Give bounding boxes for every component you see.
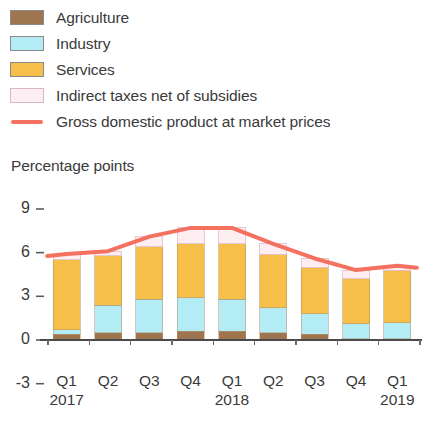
- bar-group: [53, 228, 411, 340]
- bar-segment: [343, 324, 370, 339]
- bar-segment: [136, 247, 163, 299]
- bar-segment: [219, 331, 246, 340]
- x-tick-label-quarter: Q3: [129, 372, 169, 389]
- y-tick-label: -3: [4, 375, 30, 391]
- x-tick-label-quarter: Q2: [88, 372, 128, 389]
- bar-segment: [53, 330, 80, 334]
- bar-segment: [343, 279, 370, 324]
- bar-segment: [301, 267, 328, 314]
- chart-legend: AgricultureIndustryServicesIndirect taxe…: [10, 4, 420, 134]
- legend-item: Indirect taxes net of subsidies: [10, 82, 420, 108]
- x-tick-label-quarter: Q1: [47, 372, 87, 389]
- legend-item-label: Agriculture: [56, 9, 129, 26]
- chart-plot-area: 9630-3Q1Q2Q3Q4Q1Q2Q3Q4Q1201720182019: [0, 185, 426, 430]
- bar-segment: [301, 334, 328, 340]
- bar-segment: [53, 260, 80, 330]
- bar-segment: [177, 244, 204, 298]
- bar-segment: [260, 308, 287, 333]
- legend-item: Agriculture: [10, 4, 420, 30]
- x-tick-label-quarter: Q1: [212, 372, 252, 389]
- legend-item-label: Industry: [56, 35, 110, 52]
- y-tick-label: 0: [4, 331, 30, 347]
- bar-segment: [384, 270, 411, 322]
- legend-item-label: Services: [56, 61, 115, 78]
- legend-item: Gross domestic product at market prices: [10, 108, 420, 134]
- y-axis-ticks: [36, 209, 44, 384]
- bar-segment: [301, 314, 328, 334]
- legend-item-label: Indirect taxes net of subsidies: [56, 87, 257, 104]
- square-swatch-icon: [10, 62, 44, 77]
- x-tick-label-quarter: Q3: [295, 372, 335, 389]
- bar-segment: [384, 323, 411, 339]
- bar-segment: [177, 298, 204, 331]
- y-tick-label: 6: [4, 244, 30, 260]
- bar-segment: [95, 256, 122, 306]
- x-tick-label-quarter: Q1: [377, 372, 417, 389]
- bar-segment: [136, 333, 163, 340]
- legend-item-label: Gross domestic product at market prices: [56, 113, 330, 130]
- bar-segment: [260, 333, 287, 340]
- bar-segment: [95, 333, 122, 340]
- bar-segment: [219, 244, 246, 299]
- square-swatch-icon: [10, 88, 44, 103]
- bar-segment: [260, 254, 287, 308]
- square-swatch-icon: [10, 10, 44, 25]
- bar-segment: [219, 299, 246, 331]
- x-tick-label-year: 2019: [371, 391, 423, 408]
- x-tick-label-year: 2017: [41, 391, 93, 408]
- x-tick-label-quarter: Q4: [171, 372, 211, 389]
- legend-item: Industry: [10, 30, 420, 56]
- bar-segment: [95, 305, 122, 333]
- y-tick-label: 9: [4, 200, 30, 216]
- bar-segment: [136, 299, 163, 332]
- square-swatch-icon: [10, 36, 44, 51]
- bar-segment: [177, 331, 204, 340]
- x-tick-label-year: 2018: [206, 391, 258, 408]
- x-tick-label-quarter: Q2: [253, 372, 293, 389]
- line-swatch-icon: [10, 114, 44, 129]
- y-tick-label: 3: [4, 287, 30, 303]
- bar-segment: [53, 334, 80, 340]
- y-axis-title: Percentage points: [11, 157, 134, 175]
- x-tick-label-quarter: Q4: [336, 372, 376, 389]
- legend-item: Services: [10, 56, 420, 82]
